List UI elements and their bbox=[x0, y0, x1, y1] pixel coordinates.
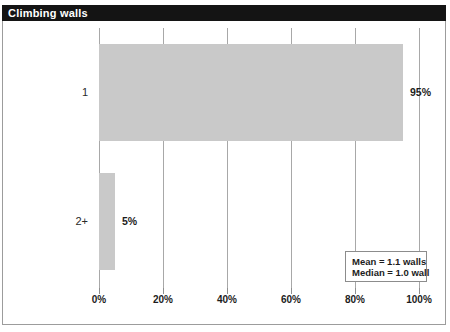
value-label-2+: 5% bbox=[122, 173, 137, 270]
x-tick-label-20%: 20% bbox=[137, 294, 189, 305]
x-tick-label-40%: 40% bbox=[201, 294, 253, 305]
value-label-1: 95% bbox=[410, 44, 431, 141]
plot-area: 0%20%40%60%80%100%195%2+5% bbox=[0, 0, 450, 332]
bar-1 bbox=[99, 44, 403, 141]
legend-box: Mean = 1.1 walls Median = 1.0 wall bbox=[345, 251, 427, 282]
x-tick-label-60%: 60% bbox=[265, 294, 317, 305]
category-label-2+: 2+ bbox=[44, 173, 88, 270]
x-tick-label-100%: 100% bbox=[393, 294, 445, 305]
legend-median: Median = 1.0 wall bbox=[352, 267, 421, 278]
x-tick-label-80%: 80% bbox=[329, 294, 381, 305]
legend-mean: Mean = 1.1 walls bbox=[352, 256, 421, 267]
bar-2+ bbox=[99, 173, 115, 270]
climbing-walls-chart: Climbing walls 0%20%40%60%80%100%195%2+5… bbox=[0, 0, 450, 332]
x-tick-label-0%: 0% bbox=[73, 294, 125, 305]
category-label-1: 1 bbox=[44, 44, 88, 141]
